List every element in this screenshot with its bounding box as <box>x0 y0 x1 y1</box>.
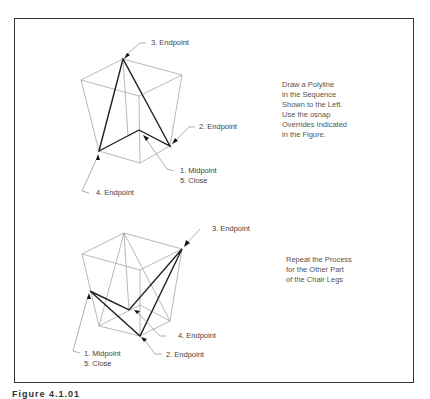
instruction-line: Repeat the Process <box>286 255 352 265</box>
bottom-polyline <box>90 249 182 336</box>
top-label-endpoint-4: 4. Endpoint <box>96 188 134 198</box>
top-leaders <box>82 43 195 193</box>
instruction-line: of the Chair Legs <box>286 275 352 285</box>
bottom-label-endpoint-3: 3. Endpoint <box>212 224 250 234</box>
top-polyline <box>99 59 170 151</box>
bottom-label-endpoint-4: 4. Endpoint <box>178 331 216 341</box>
instruction-line: in the Figure. <box>282 130 347 140</box>
instruction-line: for the Other Part <box>286 265 352 275</box>
top-label-midpoint-1: 1. Midpoint <box>180 166 217 176</box>
bottom-instructions: Repeat the Process for the Other Part of… <box>286 255 352 285</box>
instruction-line: Shown to the Left. <box>282 100 347 110</box>
instruction-line: Overrides Indicated <box>282 120 347 130</box>
bottom-label-endpoint-2: 2. Endpoint <box>166 350 204 360</box>
top-label-endpoint-3: 3. Endpoint <box>151 38 189 48</box>
bottom-label-close-5: 5. Close <box>84 359 112 369</box>
instruction-line: Draw a Polyline <box>282 80 347 90</box>
top-label-endpoint-2: 2. Endpoint <box>199 122 237 132</box>
bottom-wireframe <box>82 233 182 336</box>
figure-caption: Figure 4.1.01 <box>12 389 80 399</box>
instruction-line: in the Sequence <box>282 90 347 100</box>
bottom-label-midpoint-1: 1. Midpoint <box>84 349 121 359</box>
instruction-line: Use the osnap <box>282 110 347 120</box>
top-instructions: Draw a Polyline in the Sequence Shown to… <box>282 80 347 140</box>
top-label-close-5: 5. Close <box>180 176 208 186</box>
